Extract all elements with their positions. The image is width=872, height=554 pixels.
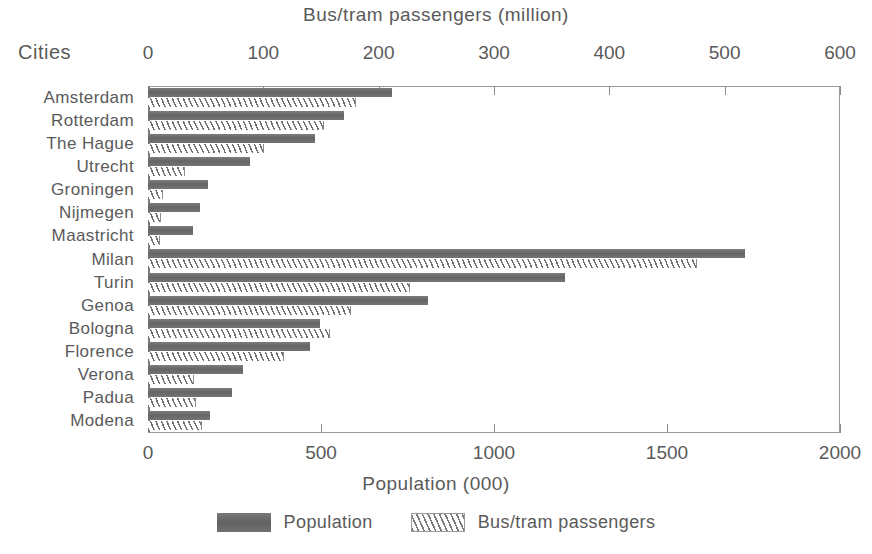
category-label: Genoa	[81, 296, 134, 316]
bar-bus-tram	[148, 121, 324, 130]
top-tick-label: 100	[247, 42, 279, 64]
bottom-tick-label: 1500	[646, 442, 688, 464]
top-tick-label: 0	[143, 42, 154, 64]
category-label: Nijmegen	[59, 203, 134, 223]
bar-population	[148, 134, 315, 143]
category-label: Turin	[94, 273, 134, 293]
bar-bus-tram	[148, 352, 284, 361]
category-label: Florence	[65, 342, 134, 362]
bottom-tick-label: 0	[143, 442, 154, 464]
legend-label-bus-tram: Bus/tram passengers	[478, 512, 656, 533]
y-axis-title: Cities	[18, 41, 71, 64]
bar-bus-tram	[148, 213, 161, 222]
legend-label-population: Population	[284, 512, 373, 533]
category-label: Bologna	[69, 319, 134, 339]
bar-bus-tram	[148, 236, 160, 245]
chart-legend: Population Bus/tram passengers	[0, 512, 872, 533]
bottom-tick-label: 1000	[473, 442, 515, 464]
legend-item-bus-tram: Bus/tram passengers	[411, 512, 656, 533]
top-axis-title: Bus/tram passengers (million)	[0, 4, 872, 26]
bar-bus-tram	[148, 306, 351, 315]
bar-population	[148, 180, 208, 189]
category-label: Amsterdam	[43, 88, 134, 108]
bar-chart: Bus/tram passengers (million) Cities 010…	[0, 0, 872, 554]
bar-population	[148, 157, 250, 166]
category-label: Milan	[91, 250, 134, 270]
category-label: Modena	[70, 411, 134, 431]
category-label: Verona	[78, 365, 134, 385]
bar-bus-tram	[148, 190, 163, 199]
bar-bus-tram	[148, 329, 330, 338]
bar-population	[148, 411, 210, 420]
bar-bus-tram	[148, 398, 196, 407]
bar-bus-tram	[148, 375, 194, 384]
bottom-tick-label: 500	[305, 442, 337, 464]
bar-population	[148, 342, 310, 351]
bar-population	[148, 273, 565, 282]
top-tick-label: 500	[709, 42, 741, 64]
bar-bus-tram	[148, 98, 356, 107]
bar-population	[148, 319, 320, 328]
bar-population	[148, 111, 344, 120]
bottom-axis-title: Population (000)	[0, 473, 872, 495]
bar-population	[148, 203, 200, 212]
top-tick-label: 600	[824, 42, 856, 64]
top-tick-label: 200	[363, 42, 395, 64]
legend-item-population: Population	[217, 512, 373, 533]
bar-population	[148, 365, 243, 374]
bar-bus-tram	[148, 167, 185, 176]
legend-swatch-population-icon	[217, 513, 271, 532]
bottom-tick-label: 2000	[819, 442, 861, 464]
category-label: Groningen	[51, 180, 134, 200]
bar-bus-tram	[148, 283, 410, 292]
bar-population	[148, 296, 428, 305]
category-label: Rotterdam	[51, 111, 134, 131]
bar-population	[148, 388, 232, 397]
category-label: Maastricht	[52, 226, 134, 246]
category-label: Utrecht	[76, 157, 134, 177]
bar-bus-tram	[148, 144, 264, 153]
bar-population	[148, 226, 193, 235]
category-label: The Hague	[46, 134, 134, 154]
top-tick-mark	[840, 86, 841, 95]
bar-population	[148, 249, 745, 258]
category-label: Padua	[83, 388, 134, 408]
bar-bus-tram	[148, 421, 202, 430]
bar-population	[148, 88, 392, 97]
top-tick-label: 300	[478, 42, 510, 64]
top-tick-label: 400	[593, 42, 625, 64]
bottom-tick-mark	[840, 424, 841, 433]
bar-bus-tram	[148, 259, 697, 268]
legend-swatch-bus-tram-icon	[411, 513, 465, 532]
